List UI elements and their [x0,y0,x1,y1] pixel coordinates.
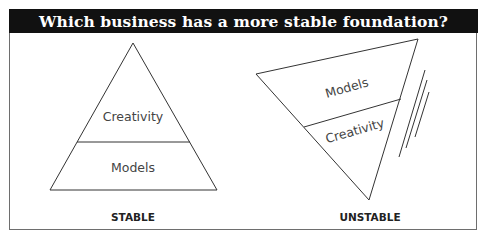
unstable-caption: UNSTABLE [339,211,400,223]
unstable-pyramid: Models Creativity UNSTABLE [256,39,429,223]
stable-pyramid: Creativity Models STABLE [50,43,217,223]
stable-bottom-label: Models [111,160,155,175]
unstable-triangle-outline [256,39,418,200]
unstable-bottom-label: Creativity [324,115,387,146]
motion-lines-icon [399,70,429,157]
diagram-canvas: Creativity Models STABLE Models Creativi… [0,0,487,237]
unstable-top-label: Models [324,74,370,101]
stable-caption: STABLE [111,211,155,223]
stable-top-label: Creativity [103,109,164,124]
